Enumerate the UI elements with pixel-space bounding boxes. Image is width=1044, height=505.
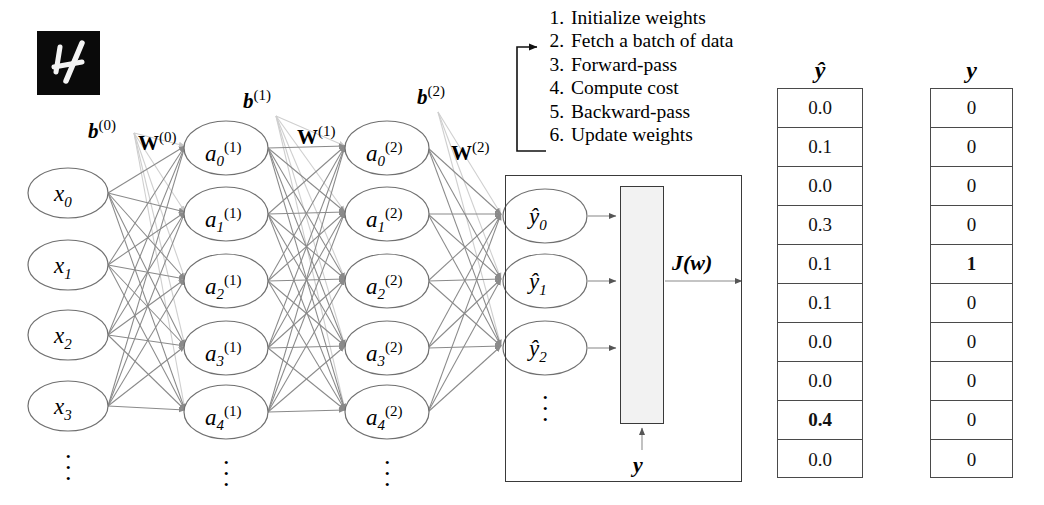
target-cell: 0 <box>931 89 1012 128</box>
prediction-cell: 0.0 <box>778 362 862 401</box>
node-label-a3-2: a3(2) <box>366 340 403 369</box>
prediction-cell: 0.0 <box>778 89 862 128</box>
step-item: 3. Forward-pass <box>540 53 780 76</box>
node-label-a1-1: a1(1) <box>205 206 242 235</box>
prediction-cell: 0.0 <box>778 167 862 206</box>
target-vector-header: y <box>930 57 1013 84</box>
node-label-x2: x2 <box>54 324 72 352</box>
node-label-a1-2: a1(2) <box>366 206 403 235</box>
target-cell: 0 <box>931 128 1012 167</box>
target-cell: 0 <box>931 440 1012 479</box>
target-vector-table: 0 0 0 0 1 0 0 0 0 0 <box>930 88 1013 478</box>
node-label-a0-2: a0(2) <box>366 140 403 169</box>
target-cell: 0 <box>931 323 1012 362</box>
node-label-x0: x0 <box>54 182 72 210</box>
cost-function-bar <box>620 186 664 424</box>
step-item: 1. Initialize weights <box>540 6 780 29</box>
prediction-cell: 0.1 <box>778 284 862 323</box>
node-label-a4-2: a4(2) <box>366 404 403 433</box>
target-cell: 0 <box>931 284 1012 323</box>
node-label-x1: x1 <box>54 254 72 282</box>
bias-label-1: b(1) <box>243 88 271 112</box>
node-label-x3: x3 <box>54 395 72 423</box>
step-item: 4. Compute cost <box>540 76 780 99</box>
step-item: 5. Backward-pass <box>540 100 780 123</box>
training-loop-steps: 1. Initialize weights 2. Fetch a batch o… <box>540 6 780 146</box>
prediction-vector-table: 0.0 0.1 0.0 0.3 0.1 0.1 0.0 0.0 0.4 0.0 <box>777 88 863 478</box>
step-item: 6. Update weights <box>540 123 780 146</box>
input-digit-thumbnail <box>37 31 100 95</box>
node-label-a0-1: a0(1) <box>205 140 242 169</box>
weight-label-1: W(1) <box>297 124 336 148</box>
node-label-a2-2: a2(2) <box>366 273 403 302</box>
prediction-vector-header: ŷ <box>777 57 863 84</box>
target-cell: 0 <box>931 206 1012 245</box>
target-input-label: y <box>633 452 643 478</box>
target-cell: 0 <box>931 401 1012 440</box>
bias-label-2: b(2) <box>417 84 445 108</box>
node-label-a2-1: a2(1) <box>205 273 242 302</box>
target-cell-highlighted: 1 <box>931 245 1012 284</box>
prediction-cell: 0.1 <box>778 245 862 284</box>
cost-output-label: J(w) <box>672 250 712 276</box>
weight-label-0: W(0) <box>138 130 177 154</box>
prediction-cell: 0.1 <box>778 128 862 167</box>
prediction-cell-highlighted: 0.4 <box>778 401 862 440</box>
node-label-a3-1: a3(1) <box>205 340 242 369</box>
target-cell: 0 <box>931 362 1012 401</box>
target-cell: 0 <box>931 167 1012 206</box>
weight-label-2: W(2) <box>451 140 490 164</box>
prediction-cell: 0.0 <box>778 440 862 479</box>
hidden1-layer-ellipsis: ... <box>223 450 229 483</box>
bias-label-0: b(0) <box>88 118 116 142</box>
figure-canvas: x0 x1 x2 x3 ... a0(1) a1(1) a2(1) a3(1) … <box>0 0 1044 505</box>
input-layer-ellipsis: ... <box>65 444 71 477</box>
prediction-cell: 0.0 <box>778 323 862 362</box>
prediction-cell: 0.3 <box>778 206 862 245</box>
step-item: 2. Fetch a batch of data <box>540 29 780 52</box>
hidden2-layer-ellipsis: ... <box>384 450 390 483</box>
node-label-a4-1: a4(1) <box>205 404 242 433</box>
